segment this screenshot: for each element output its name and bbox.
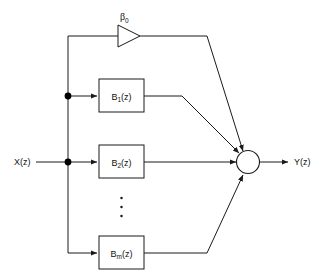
signal-flow-diagram: β0 X(z) Y(z) B1(z) B2(z) Bm(z) — [0, 0, 327, 280]
block-b1-label: B1(z) — [111, 92, 131, 104]
block-diagram-canvas: β0 X(z) Y(z) B1(z) B2(z) Bm(z) — [0, 0, 327, 280]
gain-to-summer-wire — [207, 36, 243, 151]
output-signal-label: Y(z) — [294, 157, 311, 167]
input-signal-label: X(z) — [14, 157, 31, 167]
gain-label: β0 — [120, 11, 129, 24]
branch1-to-summer-wire — [182, 96, 239, 153]
branchm-to-summer-wire — [207, 175, 243, 253]
block-b2-label: B2(z) — [111, 158, 131, 170]
junction-dot-branch2 — [65, 159, 72, 166]
ellipsis-vertical-dots — [120, 197, 123, 218]
junction-dot-branch1 — [65, 93, 72, 100]
gain-amplifier-triangle — [118, 25, 140, 47]
summing-junction — [237, 151, 260, 174]
block-bm-label: Bm(z) — [111, 249, 133, 261]
